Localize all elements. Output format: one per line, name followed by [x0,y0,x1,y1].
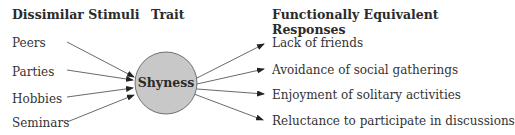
arrow-seminars [67,95,134,122]
arrow-lack-of-friends [195,44,264,79]
response-avoidance: Avoidance of social gatherings [272,63,458,77]
arrow-avoidance [197,69,264,84]
arrow-enjoyment [197,89,264,94]
trait-label: Shyness [136,75,196,90]
response-reluctance: Reluctance to participate in discussions [272,114,515,128]
arrow-reluctance [194,94,263,120]
response-enjoyment: Enjoyment of solitary activities [272,88,461,102]
response-lack-of-friends: Lack of friends [272,36,363,50]
arrow-hobbies [67,88,133,97]
